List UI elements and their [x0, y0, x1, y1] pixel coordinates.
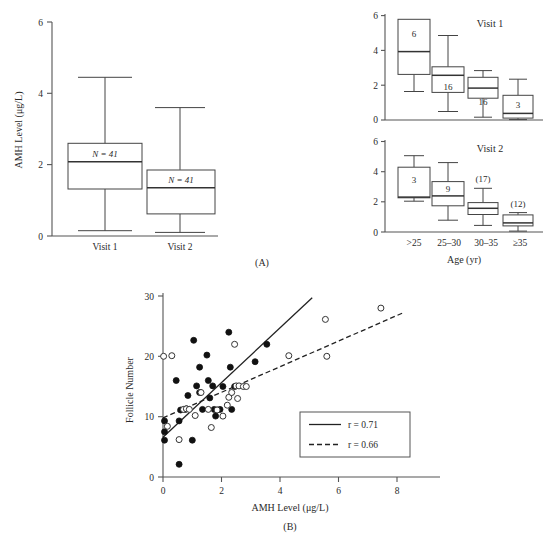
visit2-xtick-gt25: >25 — [407, 238, 422, 248]
visit2-y-ticks: 6 4 2 0 — [373, 137, 385, 238]
panel-a-label: (A) — [255, 257, 269, 269]
visit2-title: Visit 2 — [477, 143, 503, 154]
visit2-box-gt25-count: 3 — [412, 175, 417, 185]
panel-b-x-ticks: 0 2 4 6 8 — [161, 477, 400, 496]
figure-root: AMH Level (μg/L) 6 4 2 0 N = 41 Visit 1 — [0, 0, 546, 538]
visit2-box-30-35-count: (17) — [476, 174, 491, 184]
visit1-box-ge35: 3 — [503, 79, 533, 119]
panel-b-xtick-6: 6 — [336, 486, 341, 496]
visit2-box-25-30-count: 9 — [446, 184, 451, 194]
panel-a-ytick-2: 2 — [38, 160, 43, 170]
scatter-points-filled — [162, 329, 270, 467]
panel-a-xtick-visit-2: Visit 2 — [167, 242, 192, 252]
panel-b-legend: r = 0.71 r = 0.66 — [300, 412, 410, 457]
figure-canvas: AMH Level (μg/L) 6 4 2 0 N = 41 Visit 1 — [0, 0, 546, 538]
visit1-ytick-4: 4 — [373, 46, 378, 56]
visit1-box-25-30: 16 — [432, 36, 464, 112]
panel-b-xtick-4: 4 — [278, 486, 283, 496]
panel-b-xtick-2: 2 — [219, 486, 224, 496]
visit1-box-gt25: 6 — [398, 19, 430, 91]
visit1-box-25-30-count: 16 — [444, 82, 454, 92]
visit1-box-ge35-count: 3 — [516, 100, 521, 110]
visit2-box-30-35: (17) — [468, 174, 498, 225]
visit2-ytick-0: 0 — [373, 228, 378, 238]
visit2-ytick-2: 2 — [373, 197, 378, 207]
regression-line-solid — [163, 298, 312, 437]
legend-label-solid: r = 0.71 — [348, 420, 378, 430]
panel-a-visit2-chart: 6 4 2 0 Visit 2 3 9 — [373, 137, 543, 266]
panel-a-y-ticks: 6 4 2 0 — [38, 18, 52, 242]
panel-b-label: (B) — [283, 521, 296, 533]
panel-b-xtick-8: 8 — [395, 486, 400, 496]
panel-a-visit1-chart: 6 4 2 0 Visit 1 6 16 — [373, 11, 543, 125]
panel-b-ytick-0: 0 — [149, 473, 154, 483]
visit2-x-tick-labels: >25 25–30 30–35 ≥35 — [407, 238, 528, 248]
visit2-box-ge35-count: (12) — [511, 199, 526, 209]
visit1-title: Visit 1 — [477, 18, 503, 29]
box-visit-2: N = 41 Visit 2 — [147, 108, 215, 252]
visit1-ytick-0: 0 — [373, 115, 378, 125]
box-visit-1: N = 41 Visit 1 — [68, 77, 142, 252]
visit1-box-30-35-count: 16 — [479, 97, 489, 107]
panel-a-xtick-visit-1: Visit 1 — [92, 242, 117, 252]
visit2-ytick-6: 6 — [373, 137, 378, 147]
visit1-box-gt25-count: 6 — [412, 29, 417, 39]
box-visit-2-n-label: N = 41 — [167, 175, 194, 185]
visit2-ytick-4: 4 — [373, 167, 378, 177]
visit2-xtick-30-35: 30–35 — [474, 238, 498, 248]
visit2-box-gt25: 3 — [398, 156, 430, 202]
panel-b-ytick-30: 30 — [145, 292, 155, 302]
visit1-box-30-35: 16 — [468, 71, 498, 118]
panel-a-ytick-4: 4 — [38, 89, 43, 99]
visit2-box-25-30: 9 — [432, 163, 464, 221]
visit2-xtick-ge35: ≥35 — [513, 238, 528, 248]
panel-b-y-ticks: 30 20 10 0 — [145, 292, 164, 483]
visit2-xtick-25-30: 25–30 — [437, 238, 461, 248]
panel-b-x-axis-label: AMH Level (μg/L) — [251, 502, 328, 514]
panel-b-y-axis-label: Follicle Number — [124, 356, 135, 422]
visit1-y-ticks: 6 4 2 0 — [373, 11, 385, 125]
panel-a-y-axis-label: AMH Level (μg/L) — [13, 91, 25, 168]
panel-b-ytick-20: 20 — [145, 352, 155, 362]
visit2-x-axis-label: Age (yr) — [447, 254, 481, 266]
visit1-ytick-2: 2 — [373, 81, 378, 91]
panel-a-ytick-6: 6 — [38, 18, 43, 28]
panel-b-ytick-10: 10 — [145, 412, 155, 422]
panel-b-chart: Follicle Number 30 20 10 0 0 2 4 6 8 AMH… — [124, 292, 440, 534]
box-visit-1-n-label: N = 41 — [91, 149, 118, 159]
legend-label-dashed: r = 0.66 — [348, 440, 378, 450]
panel-a-ytick-0: 0 — [38, 232, 43, 242]
panel-a-left-chart: AMH Level (μg/L) 6 4 2 0 N = 41 Visit 1 — [13, 18, 269, 270]
panel-b-xtick-0: 0 — [161, 486, 166, 496]
visit2-box-ge35: (12) — [503, 199, 533, 231]
visit1-ytick-6: 6 — [373, 11, 378, 21]
